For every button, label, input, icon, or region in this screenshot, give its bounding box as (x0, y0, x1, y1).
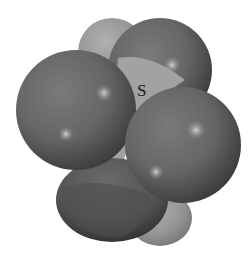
right-sphere (125, 87, 241, 203)
sulfur-label: S (137, 81, 146, 100)
space-filling-model: S (0, 0, 248, 263)
highlight (58, 126, 74, 142)
left-sphere (16, 50, 136, 170)
molecule-model: S (0, 0, 248, 263)
highlight (186, 120, 206, 140)
highlight (95, 84, 113, 102)
highlight (148, 164, 164, 180)
